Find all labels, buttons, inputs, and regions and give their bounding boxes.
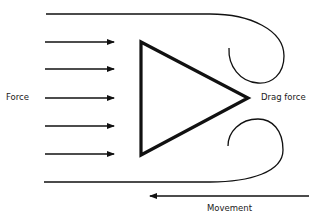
- force-label: Force: [6, 92, 29, 102]
- drag-force-label: Drag force: [261, 92, 306, 102]
- force-arrows: [45, 42, 114, 154]
- triangle-object: [141, 42, 248, 155]
- movement-label: Movement: [207, 203, 252, 213]
- diagram-canvas: [0, 0, 312, 216]
